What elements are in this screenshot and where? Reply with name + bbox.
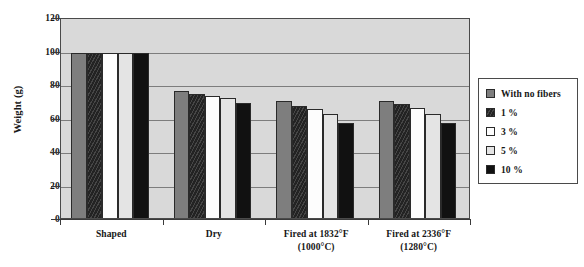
bar: [220, 98, 236, 219]
plot-area: [60, 18, 470, 219]
bar: [174, 91, 190, 219]
legend-item[interactable]: 3 %: [486, 122, 577, 141]
x-category-label-main: Dry: [206, 229, 222, 239]
legend-item-label: 3 %: [501, 127, 518, 137]
bar: [292, 106, 308, 219]
legend-swatch-icon: [486, 89, 495, 98]
bar: [276, 101, 292, 219]
x-category-label-main: Fired at 2336°F: [386, 229, 451, 239]
bar: [323, 114, 339, 219]
bar: [379, 101, 395, 219]
legend-swatch-icon: [486, 146, 495, 155]
bar: [205, 96, 221, 219]
y-tick-mark: [51, 85, 60, 86]
bar-series-layer: [61, 19, 469, 218]
y-tick-mark: [51, 152, 60, 153]
bar: [118, 53, 134, 220]
y-tick-mark: [51, 52, 60, 53]
legend-swatch-icon: [486, 108, 495, 117]
x-category-label-main: Shaped: [96, 229, 127, 239]
bar: [133, 53, 149, 220]
legend-item[interactable]: 10 %: [486, 160, 577, 179]
legend-item-label: With no fibers: [501, 89, 561, 99]
y-tick-mark: [51, 219, 60, 220]
legend-item-label: 5 %: [501, 146, 518, 156]
x-category-label: Fired at 2336°F(1280°C): [358, 228, 481, 253]
x-tick-mark: [163, 219, 164, 225]
bar: [87, 53, 103, 220]
y-tick-mark: [51, 18, 60, 19]
bar: [394, 104, 410, 219]
legend-item[interactable]: 5 %: [486, 141, 577, 160]
legend-item[interactable]: With no fibers: [486, 84, 577, 103]
bar: [189, 94, 205, 219]
legend-swatch-icon: [486, 165, 495, 174]
bar: [236, 103, 252, 219]
x-tick-mark: [60, 219, 61, 225]
legend-swatch-icon: [486, 127, 495, 136]
x-category-label-main: Fired at 1832°F: [284, 229, 349, 239]
x-tick-mark: [265, 219, 266, 225]
bar: [307, 109, 323, 219]
x-tick-mark: [368, 219, 369, 225]
x-category-label-sub: (1280°C): [358, 241, 481, 254]
bar: [338, 123, 354, 219]
y-tick-mark: [51, 186, 60, 187]
y-tick-mark: [51, 119, 60, 120]
x-tick-mark: [470, 219, 471, 225]
legend-item-label: 1 %: [501, 108, 518, 118]
bar: [441, 123, 457, 219]
chart-figure: Weight (g) 020406080100120 ShapedDryFire…: [0, 0, 584, 267]
bar: [102, 53, 118, 220]
bar: [71, 53, 87, 220]
bar: [425, 114, 441, 219]
bar: [410, 108, 426, 219]
legend: With no fibers1 %3 %5 %10 %: [478, 78, 578, 184]
legend-item-label: 10 %: [501, 165, 523, 175]
legend-item[interactable]: 1 %: [486, 103, 577, 122]
